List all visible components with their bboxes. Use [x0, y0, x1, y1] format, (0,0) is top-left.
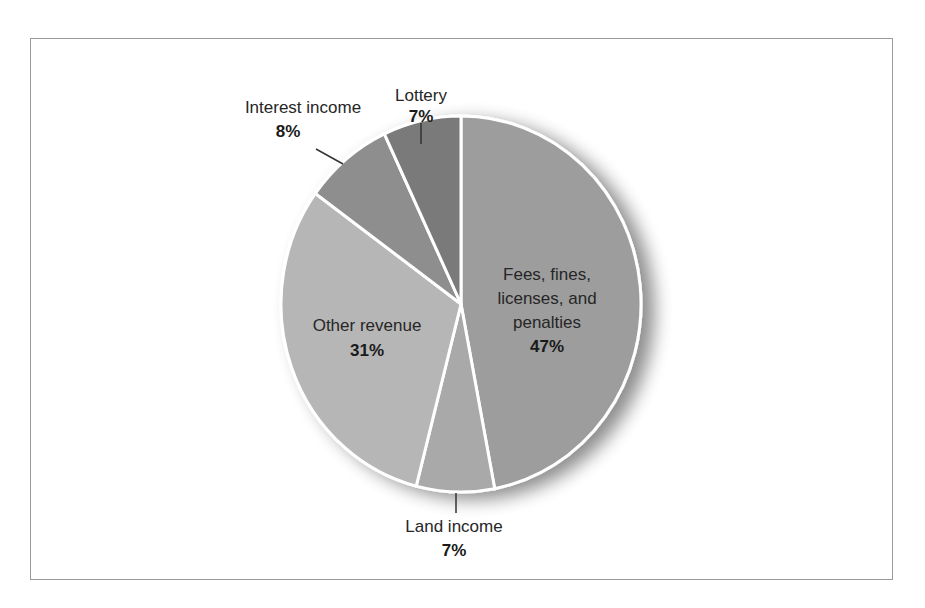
pie-chart: Lottery 7% Interest income 8% Other reve… [0, 0, 925, 608]
fees-label-line1: Fees, fines, [503, 265, 591, 284]
land-label: Land income [405, 517, 502, 536]
lottery-percent: 7% [409, 107, 434, 126]
interest-percent: 8% [276, 122, 301, 141]
lottery-label: Lottery [395, 86, 447, 105]
other-percent: 31% [350, 341, 384, 360]
fees-label-line2: licenses, and [497, 289, 596, 308]
interest-label: Interest income [245, 98, 361, 117]
land-percent: 7% [442, 541, 467, 560]
fees-percent: 47% [530, 337, 564, 356]
interest-leader-line [316, 149, 343, 164]
fees-label-line3: penalties [513, 313, 581, 332]
other-label: Other revenue [313, 316, 422, 335]
